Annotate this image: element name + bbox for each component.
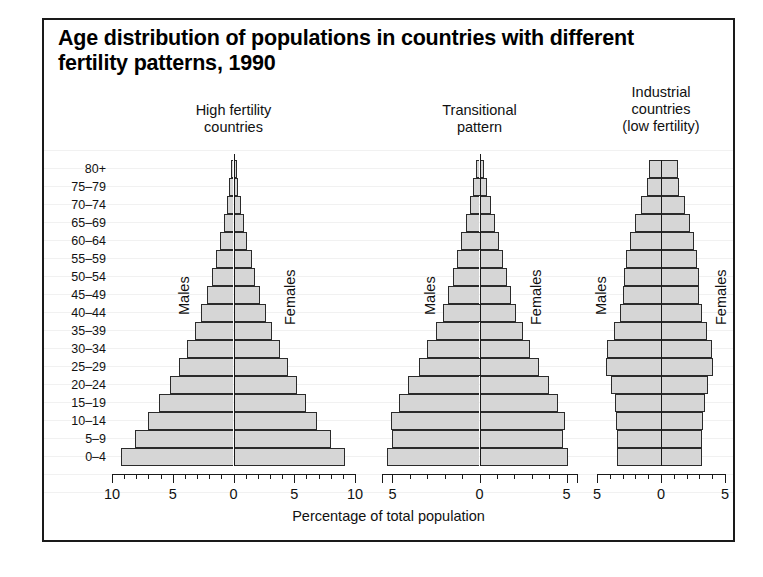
x-axis-minor-tick — [161, 474, 162, 479]
x-axis-minor-tick — [270, 474, 271, 479]
series-label-males: Males — [422, 276, 438, 315]
bar-male — [443, 304, 480, 322]
bar-female — [234, 394, 307, 412]
bar-male — [635, 214, 661, 232]
x-axis-tick-label: 10 — [104, 486, 120, 502]
x-axis-tick-label: 5 — [388, 486, 396, 502]
scan-line — [44, 204, 733, 205]
bar-male — [187, 340, 233, 358]
age-group-label: 10–14 — [48, 412, 106, 430]
bar-female — [234, 286, 261, 304]
bar-male — [466, 214, 480, 232]
x-axis-minor-tick — [197, 474, 198, 479]
x-axis-minor-tick — [331, 474, 332, 479]
x-axis-minor-tick — [124, 474, 125, 479]
x-axis-minor-tick — [610, 474, 611, 479]
bar-female — [234, 376, 297, 394]
bar-male — [615, 394, 661, 412]
age-group-label: 70–74 — [48, 196, 106, 214]
bar-male — [135, 430, 233, 448]
panel-title: High fertilitycountries — [144, 102, 324, 136]
bar-male — [457, 250, 480, 268]
bar-female — [480, 448, 569, 466]
x-axis-end-tick — [112, 474, 113, 483]
x-axis-minor-tick — [343, 474, 344, 479]
bar-female — [234, 430, 331, 448]
bar-female — [234, 250, 252, 268]
bar-male — [606, 358, 661, 376]
bar-male — [617, 448, 661, 466]
bar-male — [224, 214, 234, 232]
x-axis-tick-label: 10 — [347, 486, 363, 502]
bar-male — [624, 268, 661, 286]
age-group-label: 30–34 — [48, 340, 106, 358]
scan-line — [44, 168, 733, 169]
series-label-males: Males — [176, 276, 192, 315]
bar-male — [419, 358, 480, 376]
age-axis-labels: 80+75–7970–7465–6960–6455–5950–5445–4940… — [48, 160, 106, 466]
bar-male — [170, 376, 233, 394]
bar-female — [234, 340, 280, 358]
bar-male — [626, 250, 661, 268]
bar-female — [661, 250, 697, 268]
panel-title-line: Transitional — [390, 102, 570, 119]
bar-female — [661, 196, 685, 214]
x-axis-minor-tick — [635, 474, 636, 479]
bar-male — [436, 322, 480, 340]
age-group-label: 45–49 — [48, 286, 106, 304]
bar-female — [234, 268, 256, 286]
age-group-label: 50–54 — [48, 268, 106, 286]
bar-male — [620, 304, 661, 322]
x-axis-minor-tick — [712, 474, 713, 479]
bar-female — [480, 250, 504, 268]
scan-line — [44, 222, 733, 223]
age-group-label: 25–29 — [48, 358, 106, 376]
bar-male — [387, 448, 479, 466]
x-axis-minor-tick — [648, 474, 649, 479]
panel-title-line: countries — [571, 101, 751, 118]
bar-male — [399, 394, 479, 412]
x-axis-minor-tick — [674, 474, 675, 479]
panel-title-line: High fertility — [144, 102, 324, 119]
x-axis-minor-tick — [136, 474, 137, 479]
bar-female — [234, 358, 289, 376]
bar-male — [207, 286, 234, 304]
x-axis-minor-tick — [282, 474, 283, 479]
bar-male — [201, 304, 234, 322]
bar-female — [480, 412, 565, 430]
panel-title-line: pattern — [390, 119, 570, 136]
bar-male — [216, 250, 233, 268]
x-axis-major-tick — [661, 474, 662, 483]
bar-male — [617, 430, 661, 448]
bar-female — [661, 322, 707, 340]
bar-female — [480, 340, 530, 358]
bar-male — [448, 286, 479, 304]
bar-female — [661, 430, 702, 448]
x-axis-minor-tick — [209, 474, 210, 479]
x-axis-minor-tick — [410, 474, 411, 479]
age-group-label: 55–59 — [48, 250, 106, 268]
x-axis-minor-tick — [623, 474, 624, 479]
x-axis-tick-label: 5 — [169, 486, 177, 502]
bar-female — [480, 430, 564, 448]
series-label-females: Females — [282, 269, 298, 325]
bar-female — [661, 286, 699, 304]
bar-female — [480, 214, 496, 232]
bar-female — [234, 448, 346, 466]
bar-male — [148, 412, 233, 430]
bar-female — [480, 196, 491, 214]
bar-male — [607, 340, 661, 358]
bar-male — [408, 376, 479, 394]
bar-male — [649, 160, 661, 178]
bar-female — [661, 160, 678, 178]
bar-male — [616, 412, 661, 430]
bar-male — [614, 322, 661, 340]
panel-title-line: (low fertility) — [571, 118, 751, 135]
bar-male — [121, 448, 234, 466]
age-group-label: 35–39 — [48, 322, 106, 340]
age-group-label: 5–9 — [48, 430, 106, 448]
x-axis-minor-tick — [246, 474, 247, 479]
bar-male — [227, 196, 234, 214]
x-axis-tick-label: 5 — [290, 486, 298, 502]
age-group-label: 80+ — [48, 160, 106, 178]
